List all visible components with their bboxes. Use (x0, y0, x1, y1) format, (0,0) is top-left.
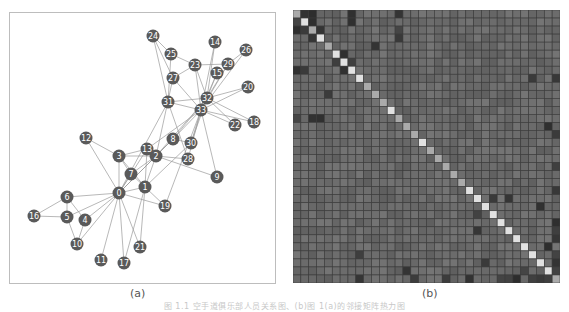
matrix-cell (481, 195, 489, 203)
matrix-cell (340, 42, 348, 50)
matrix-cell (309, 195, 317, 203)
matrix-cell (364, 163, 372, 171)
matrix-cell (497, 98, 505, 106)
matrix-cell (544, 267, 552, 275)
matrix-cell (340, 66, 348, 74)
matrix-cell (379, 50, 387, 58)
matrix-cell (411, 90, 419, 98)
matrix-cell (427, 155, 435, 163)
matrix-cell (293, 50, 301, 58)
matrix-cell (364, 219, 372, 227)
matrix-cell (450, 82, 458, 90)
node-label: 30 (186, 139, 196, 148)
matrix-cell (434, 203, 442, 211)
matrix-cell (489, 251, 497, 259)
matrix-cell (552, 251, 560, 259)
matrix-cell (348, 82, 356, 90)
matrix-cell (379, 163, 387, 171)
matrix-cell (544, 211, 552, 219)
matrix-cell (332, 90, 340, 98)
matrix-cell (332, 34, 340, 42)
matrix-cell (521, 203, 529, 211)
matrix-cell (513, 66, 521, 74)
matrix-cell (544, 259, 552, 267)
matrix-cell (450, 26, 458, 34)
matrix-cell (293, 267, 301, 275)
matrix-cell (356, 18, 364, 26)
matrix-cell (340, 50, 348, 58)
matrix-cell (301, 122, 309, 130)
matrix-cell (513, 10, 521, 18)
matrix-cell (387, 98, 395, 106)
matrix-cell (419, 10, 427, 18)
matrix-cell (309, 122, 317, 130)
matrix-cell (324, 251, 332, 259)
matrix-cell (552, 227, 560, 235)
matrix-cell (364, 74, 372, 82)
matrix-cell (372, 147, 380, 155)
matrix-cell (513, 58, 521, 66)
node-26: 26 (240, 44, 253, 57)
matrix-cell (317, 163, 325, 171)
matrix-cell (317, 26, 325, 34)
matrix-cell (372, 163, 380, 171)
matrix-cell (529, 138, 537, 146)
matrix-cell (332, 179, 340, 187)
matrix-cell (536, 227, 544, 235)
matrix-cell (474, 98, 482, 106)
matrix-cell (317, 98, 325, 106)
matrix-cell (411, 243, 419, 251)
matrix-cell (434, 227, 442, 235)
matrix-cell (481, 138, 489, 146)
matrix-cell (309, 187, 317, 195)
matrix-cell (552, 243, 560, 251)
matrix-cell (552, 74, 560, 82)
matrix-cell (536, 179, 544, 187)
node-label: 24 (148, 32, 158, 41)
matrix-cell (317, 171, 325, 179)
matrix-cell (301, 58, 309, 66)
matrix-cell (434, 122, 442, 130)
matrix-cell (552, 155, 560, 163)
matrix-cell (521, 18, 529, 26)
matrix-cell (427, 58, 435, 66)
matrix-cell (395, 130, 403, 138)
matrix-cell (372, 187, 380, 195)
matrix-cell (505, 171, 513, 179)
matrix-cell (348, 147, 356, 155)
matrix-cell (372, 106, 380, 114)
matrix-cell (332, 227, 340, 235)
node-label: 10 (72, 240, 82, 249)
matrix-cell (544, 130, 552, 138)
matrix-cell (450, 34, 458, 42)
matrix-cell (317, 267, 325, 275)
node-17: 17 (118, 257, 131, 270)
matrix-cell (411, 211, 419, 219)
matrix-cell (340, 74, 348, 82)
matrix-cell (403, 18, 411, 26)
matrix-cell (372, 82, 380, 90)
matrix-cell (497, 227, 505, 235)
matrix-cell (481, 275, 489, 283)
matrix-cell (458, 82, 466, 90)
matrix-cell (521, 243, 529, 251)
matrix-cell (521, 98, 529, 106)
matrix-cell (458, 34, 466, 42)
matrix-cell (403, 275, 411, 283)
matrix-cell (309, 179, 317, 187)
matrix-cell (458, 42, 466, 50)
matrix-cell (356, 219, 364, 227)
matrix-cell (387, 18, 395, 26)
matrix-cell (536, 163, 544, 171)
matrix-cell (419, 275, 427, 283)
matrix-cell (395, 267, 403, 275)
matrix-cell (481, 34, 489, 42)
node-label: 28 (183, 155, 193, 164)
matrix-cell (474, 259, 482, 267)
matrix-cell (356, 42, 364, 50)
node-15: 15 (211, 67, 224, 80)
matrix-cell (403, 195, 411, 203)
matrix-cell (411, 259, 419, 267)
matrix-cell (489, 187, 497, 195)
matrix-cell (356, 26, 364, 34)
